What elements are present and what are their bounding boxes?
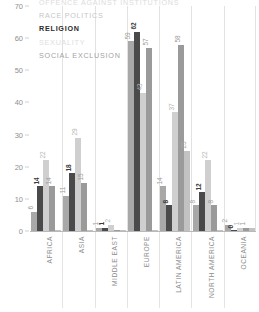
bar-value-label: 29 [72,129,79,136]
x-axis-cell: AFRICA [30,232,62,312]
y-axis-tick-label: 70 [15,2,23,11]
x-axis-label: NORTH AMERICA [208,236,215,298]
bar-value-label: 6 [28,206,35,210]
y-axis-tick-mark [25,134,29,135]
bar-value-label: 8 [207,200,214,204]
bar-value-label: 14 [34,177,41,184]
y-axis-tick-label: 0 [19,227,23,236]
bar[interactable]: 8 [211,205,217,231]
y-axis-tick-mark [25,231,29,232]
y-axis-tick-label: 60 [15,34,23,43]
bar-value-label: 22 [40,151,47,158]
legend-item[interactable]: RELIGION [39,22,209,35]
y-axis-tick-label: 30 [15,130,23,139]
x-axis-cell: NORTH AMERICA [191,232,223,312]
x-axis-cell: OCEANIA [224,232,256,312]
bar-value-label: 22 [201,151,208,158]
bar-value-label: 1 [98,222,105,226]
bar-value-label: 12 [195,183,202,190]
bar-value-label: 14 [157,177,164,184]
x-axis-cell: EUROPE [127,232,159,312]
legend-item[interactable]: SEXUALITY [39,36,209,49]
y-axis-tick-label: 50 [15,66,23,75]
bar[interactable]: 14 [49,186,55,231]
x-axis-label: EUROPE [143,236,150,267]
bar-value-label: 8 [163,200,170,204]
legend-item[interactable]: RACE POLITICS [39,9,209,22]
bar-value-label: 11 [60,187,67,194]
x-axis-cell: MIDDLE EAST [95,232,127,312]
y-axis-tick-mark [25,166,29,167]
x-axis-label: LATIN AMERICA [175,236,182,293]
bar-value-label: 37 [169,103,176,110]
bar-value-label: 2 [221,219,228,223]
bar-value-label: 14 [46,177,53,184]
bar-chart: 010203040506070 614221411182915112596243… [0,0,259,312]
x-axis: AFRICAASIAMIDDLE EASTEUROPELATIN AMERICA… [30,232,256,312]
x-axis-label: MIDDLE EAST [111,236,118,286]
bar-value-label: 8 [189,200,196,204]
bar[interactable]: 57 [146,48,152,231]
y-axis-tick-label: 40 [15,98,23,107]
y-axis-tick-mark [25,102,29,103]
bar-value-label: 25 [181,141,188,148]
x-axis-label: OCEANIA [240,236,247,270]
y-axis-tick-mark [25,6,29,7]
y-axis-tick-mark [25,70,29,71]
bar-value-label: 1 [239,222,246,226]
y-axis: 010203040506070 [0,0,30,237]
y-axis-tick-label: 20 [15,162,23,171]
bar-value-label: 18 [66,164,73,171]
x-axis-cell: LATIN AMERICA [159,232,191,312]
x-axis-label: AFRICA [46,236,53,263]
group-separator [255,6,256,231]
y-axis-tick-mark [25,198,29,199]
bar[interactable]: 15 [81,183,87,231]
bar-value-label: 2 [104,219,111,223]
bar[interactable]: 25 [184,151,190,231]
bar-value-label: 15 [78,174,85,181]
legend-item[interactable]: SOCIAL EXCLUSION [39,49,209,62]
bar-group: 2011 [225,6,255,231]
chart-legend: OFFENCE AGAINST INSTITUTIONSRACE POLITIC… [39,0,209,62]
bar-value-label: 43 [137,84,144,91]
x-axis-cell: ASIA [62,232,94,312]
y-axis-tick-mark [25,38,29,39]
y-axis-tick-label: 10 [15,194,23,203]
legend-item[interactable]: OFFENCE AGAINST INSTITUTIONS [39,0,209,9]
x-axis-label: ASIA [78,236,85,253]
